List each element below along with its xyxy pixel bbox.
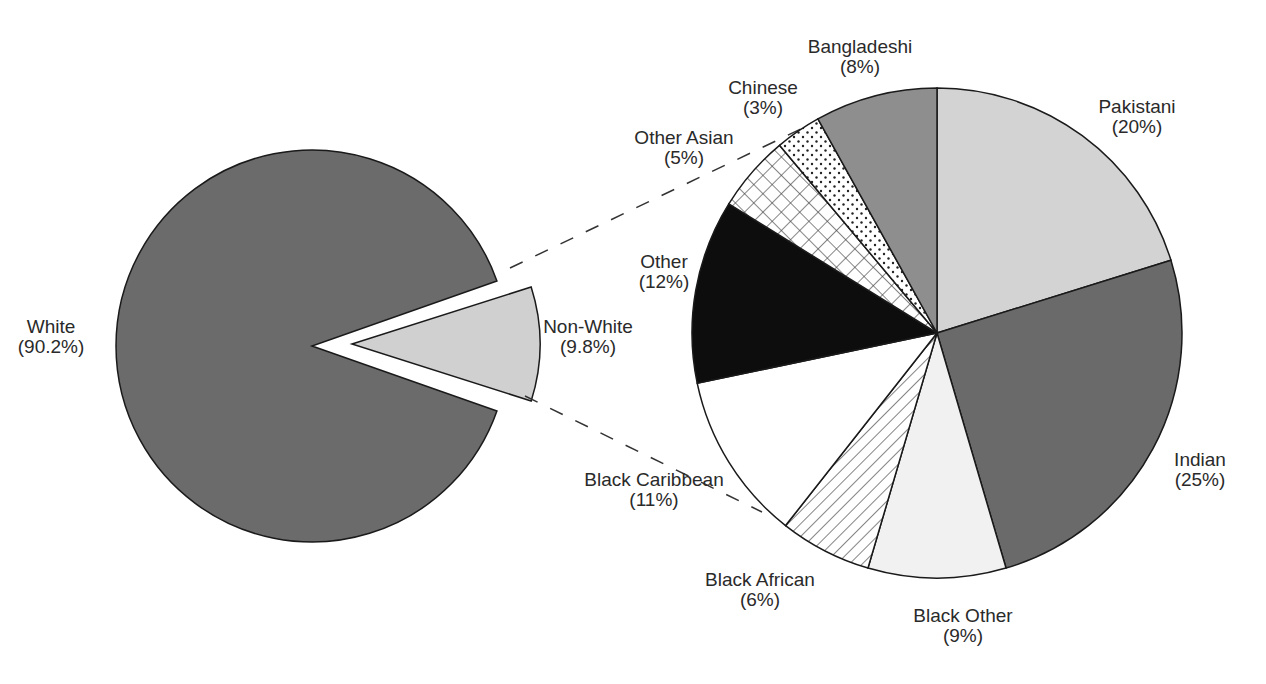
label-chinese: Chinese (3%) — [728, 78, 798, 118]
label-name: White — [18, 317, 85, 337]
label-indian: Indian (25%) — [1174, 450, 1226, 490]
label-bangladeshi: Bangladeshi (8%) — [808, 37, 913, 77]
label-non-white: Non-White (9.8%) — [543, 317, 633, 357]
label-name: Indian — [1174, 450, 1226, 470]
label-black-african: Black African (6%) — [705, 570, 815, 610]
pie-of-pie-chart — [0, 0, 1266, 684]
label-pct: (20%) — [1098, 117, 1175, 137]
label-pct: (90.2%) — [18, 337, 85, 357]
label-name: Non-White — [543, 317, 633, 337]
label-pct: (25%) — [1174, 470, 1226, 490]
label-pct: (9.8%) — [543, 337, 633, 357]
label-pakistani: Pakistani (20%) — [1098, 97, 1175, 137]
label-name: Black African — [705, 570, 815, 590]
label-name: Chinese — [728, 78, 798, 98]
label-black-other: Black Other (9%) — [913, 606, 1012, 646]
label-pct: (8%) — [808, 57, 913, 77]
label-pct: (3%) — [728, 98, 798, 118]
label-other: Other (12%) — [639, 252, 690, 292]
label-pct: (11%) — [584, 490, 723, 510]
main-pie — [116, 150, 540, 542]
label-name: Black Caribbean — [584, 470, 723, 490]
label-name: Other Asian — [634, 128, 733, 148]
label-other-asian: Other Asian (5%) — [634, 128, 733, 168]
label-pct: (6%) — [705, 590, 815, 610]
label-name: Other — [639, 252, 690, 272]
breakdown-pie — [692, 88, 1182, 578]
label-pct: (12%) — [639, 272, 690, 292]
label-name: Bangladeshi — [808, 37, 913, 57]
label-pct: (5%) — [634, 148, 733, 168]
label-black-caribbean: Black Caribbean (11%) — [584, 470, 723, 510]
label-pct: (9%) — [913, 626, 1012, 646]
label-white: White (90.2%) — [18, 317, 85, 357]
label-name: Pakistani — [1098, 97, 1175, 117]
label-name: Black Other — [913, 606, 1012, 626]
